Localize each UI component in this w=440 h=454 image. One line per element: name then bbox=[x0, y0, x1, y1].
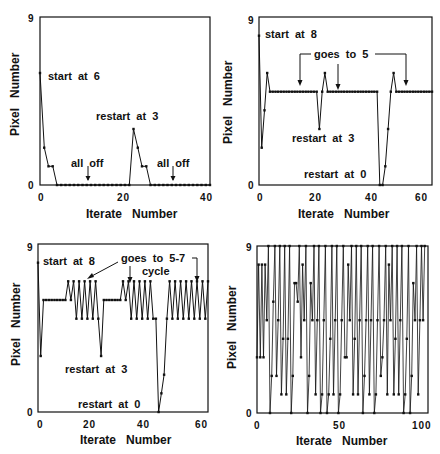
panel-top-right: 9 0 0 20 40 60 Iterate Number Pixel Numb… bbox=[221, 15, 433, 221]
annotation-all-off-1: all off bbox=[71, 157, 104, 169]
data-point-marker bbox=[100, 355, 102, 357]
data-point-marker bbox=[345, 356, 347, 358]
data-point-marker bbox=[328, 393, 330, 395]
data-point-marker bbox=[303, 319, 305, 321]
data-point-marker bbox=[308, 375, 310, 377]
data-point-marker bbox=[288, 245, 290, 247]
data-point-marker bbox=[391, 245, 393, 247]
x-tick-0: 0 bbox=[257, 192, 263, 203]
data-point-marker bbox=[336, 245, 338, 247]
data-point-marker bbox=[263, 109, 265, 111]
data-point-marker bbox=[171, 184, 173, 186]
data-point-marker bbox=[401, 245, 403, 247]
data-point-marker bbox=[310, 282, 312, 284]
data-point-marker bbox=[77, 184, 79, 186]
data-point-marker bbox=[132, 128, 134, 130]
data-point-marker bbox=[89, 280, 91, 282]
annotation-cycle: cycle bbox=[142, 265, 170, 277]
data-point-marker bbox=[141, 165, 143, 167]
data-point-marker bbox=[306, 412, 308, 414]
data-point-marker bbox=[402, 412, 404, 414]
data-point-marker bbox=[305, 245, 307, 247]
data-point-marker bbox=[271, 375, 273, 377]
data-point-marker bbox=[401, 91, 403, 93]
data-point-marker bbox=[56, 299, 58, 301]
y-axis-label: Pixel Number bbox=[8, 52, 22, 136]
data-point-marker bbox=[396, 245, 398, 247]
data-point-marker bbox=[423, 91, 425, 93]
data-point-marker bbox=[149, 280, 151, 282]
x-tick-2: 100 bbox=[412, 420, 432, 431]
data-point-marker bbox=[92, 318, 94, 320]
data-point-marker bbox=[284, 245, 286, 247]
x-tick-2: 40 bbox=[365, 192, 378, 203]
data-point-marker bbox=[200, 184, 202, 186]
data-point-marker bbox=[357, 91, 359, 93]
y-tick-bottom: 0 bbox=[248, 180, 254, 191]
data-point-marker bbox=[355, 245, 357, 247]
data-point-marker bbox=[137, 147, 139, 149]
data-point-marker bbox=[124, 184, 126, 186]
data-point-marker bbox=[383, 319, 385, 321]
data-point-marker bbox=[313, 245, 315, 247]
data-point-marker bbox=[300, 356, 302, 358]
data-point-marker bbox=[261, 147, 263, 149]
data-point-marker bbox=[390, 91, 392, 93]
data-point-marker bbox=[145, 165, 147, 167]
data-point-marker bbox=[294, 91, 296, 93]
data-point-marker bbox=[183, 184, 185, 186]
data-point-marker bbox=[334, 319, 336, 321]
data-point-marker bbox=[204, 318, 206, 320]
data-point-marker bbox=[120, 184, 122, 186]
data-point-marker bbox=[339, 393, 341, 395]
data-series bbox=[37, 262, 209, 414]
data-point-marker bbox=[411, 375, 413, 377]
y-axis-label: Pixel Number bbox=[225, 285, 239, 369]
data-point-marker bbox=[282, 338, 284, 340]
data-point-marker bbox=[275, 375, 277, 377]
data-point-marker bbox=[81, 184, 83, 186]
y-tick-top: 9 bbox=[28, 13, 34, 24]
data-point-marker bbox=[407, 245, 409, 247]
data-point-marker bbox=[190, 280, 192, 282]
data-point-marker bbox=[154, 184, 156, 186]
annotation-restart: restart at 3 bbox=[96, 110, 158, 122]
data-point-marker bbox=[422, 319, 424, 321]
data-point-marker bbox=[72, 280, 74, 282]
data-point-marker bbox=[311, 319, 313, 321]
x-tick-3: 60 bbox=[415, 192, 428, 203]
data-point-marker bbox=[205, 184, 207, 186]
figure: 9 0 0 20 40 Iterate Number Pixel Number … bbox=[0, 0, 440, 454]
data-point-marker bbox=[160, 392, 162, 394]
data-point-marker bbox=[417, 91, 419, 93]
data-point-marker bbox=[399, 319, 401, 321]
data-point-marker bbox=[337, 91, 339, 93]
data-point-marker bbox=[40, 355, 42, 357]
data-point-marker bbox=[403, 91, 405, 93]
data-point-marker bbox=[274, 245, 276, 247]
data-point-marker bbox=[393, 393, 395, 395]
data-point-marker bbox=[152, 318, 154, 320]
data-point-marker bbox=[350, 245, 352, 247]
y-tick-bottom: 0 bbox=[28, 180, 34, 191]
data-point-marker bbox=[171, 318, 173, 320]
data-point-marker bbox=[103, 184, 105, 186]
data-point-marker bbox=[201, 280, 203, 282]
data-point-marker bbox=[280, 91, 282, 93]
data-point-marker bbox=[331, 245, 333, 247]
x-tick-3: 60 bbox=[195, 419, 208, 430]
data-point-marker bbox=[385, 245, 387, 247]
data-point-marker bbox=[47, 165, 49, 167]
data-point-marker bbox=[380, 375, 382, 377]
data-point-marker bbox=[199, 318, 201, 320]
data-point-marker bbox=[39, 72, 41, 74]
data-point-marker bbox=[264, 263, 266, 265]
data-point-marker bbox=[365, 91, 367, 93]
data-point-marker bbox=[174, 280, 176, 282]
data-point-marker bbox=[119, 299, 121, 301]
data-point-marker bbox=[321, 91, 323, 93]
data-point-marker bbox=[179, 184, 181, 186]
annotation-start: start at 8 bbox=[265, 28, 317, 40]
data-point-marker bbox=[37, 262, 39, 264]
data-point-marker bbox=[60, 184, 62, 186]
